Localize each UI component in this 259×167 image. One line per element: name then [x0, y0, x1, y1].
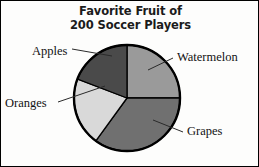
- slice-label-grapes: Grapes: [187, 125, 222, 138]
- slice-label-apples: Apples: [32, 45, 67, 58]
- pie-chart-figure: Favorite Fruit of 200 Soccer Players App…: [0, 0, 259, 167]
- slice-label-oranges: Oranges: [5, 97, 47, 110]
- pie-chart-plot: [1, 1, 259, 167]
- slice-label-watermelon: Watermelon: [177, 51, 238, 64]
